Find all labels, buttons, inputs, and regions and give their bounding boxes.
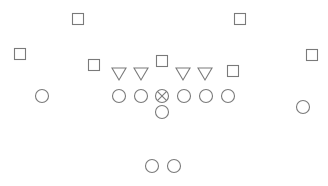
- circle-outline: [200, 90, 213, 103]
- defender-triangle-icon: [176, 68, 190, 80]
- offense-circle-icon: [200, 90, 213, 103]
- circle-outline: [222, 90, 235, 103]
- formation-diagram: [0, 0, 328, 186]
- defender-square-icon: [235, 14, 246, 25]
- defender-triangle-icon: [134, 68, 148, 80]
- defender-triangle-icon: [112, 68, 126, 80]
- circle-outline: [146, 160, 159, 173]
- circle-outline: [36, 90, 49, 103]
- defender-square-icon: [89, 60, 100, 71]
- offense-circle-icon: [36, 90, 49, 103]
- defender-triangle-icon: [198, 68, 212, 80]
- circle-outline: [113, 90, 126, 103]
- offense-circle-icon: [113, 90, 126, 103]
- offense-circle-icon: [222, 90, 235, 103]
- defender-square-icon: [157, 56, 168, 67]
- defender-square-icon: [15, 49, 26, 60]
- defender-square-icon: [228, 66, 239, 77]
- circle-outline: [156, 106, 169, 119]
- defender-square-icon: [73, 14, 84, 25]
- circle-outline: [297, 101, 310, 114]
- circle-outline: [168, 160, 181, 173]
- circle-outline: [135, 90, 148, 103]
- offense-circle-icon: [168, 160, 181, 173]
- circle-outline: [178, 90, 191, 103]
- offense-circle-icon: [156, 106, 169, 119]
- offense-circle-icon: [146, 160, 159, 173]
- center-x-circle-icon: [156, 90, 169, 103]
- offense-circle-icon: [178, 90, 191, 103]
- offense-circle-icon: [135, 90, 148, 103]
- field-canvas: [0, 0, 328, 186]
- offense-circle-icon: [297, 101, 310, 114]
- defender-square-icon: [307, 50, 318, 61]
